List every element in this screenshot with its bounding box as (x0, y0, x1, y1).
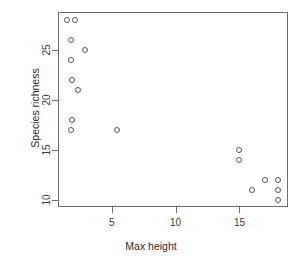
y-axis-tick (52, 150, 58, 151)
y-axis-title: Species richness (29, 11, 41, 206)
x-axis-tick-label: 15 (219, 217, 259, 228)
x-axis-tick (239, 207, 240, 213)
y-axis-tick-label: 10 (40, 194, 52, 205)
y-axis-tick-label: 15 (40, 144, 52, 155)
y-axis-tick (52, 50, 58, 51)
plot-frame (58, 12, 288, 207)
y-axis-tick (52, 200, 58, 201)
scatter-plot-figure: 10152025 51015 Max height Species richne… (0, 0, 302, 270)
x-axis-tick (112, 207, 113, 213)
y-axis-tick (52, 100, 58, 101)
x-axis-tick-label: 5 (92, 217, 132, 228)
x-axis-title: Max height (0, 240, 302, 252)
x-axis-tick (176, 207, 177, 213)
x-axis-tick-label: 10 (156, 217, 196, 228)
y-axis-tick-label: 25 (40, 44, 52, 55)
y-axis-tick-label: 20 (40, 94, 52, 105)
